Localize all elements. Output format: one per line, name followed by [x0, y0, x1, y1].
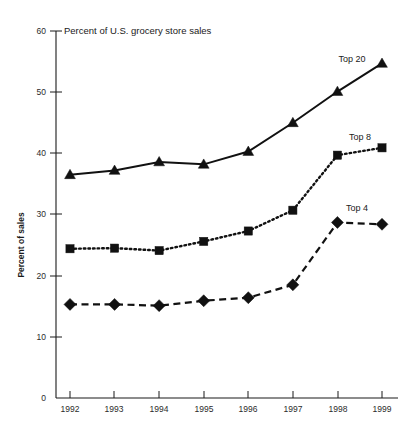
series-label-top-4: Top 4	[346, 203, 368, 213]
y-tick-label-30: 30	[37, 209, 47, 219]
x-axis-ticks: 1992 1993 1994 1995 1996 1997 1998 1999	[61, 391, 392, 414]
data-point-marker	[287, 117, 298, 126]
data-point-marker	[244, 227, 252, 235]
data-point-marker	[198, 295, 210, 307]
series-top-8	[66, 144, 386, 255]
chart-title: Percent of U.S. grocery store sales	[64, 25, 212, 36]
data-point-marker	[376, 218, 388, 230]
data-point-marker	[332, 86, 343, 95]
x-tick-label-1998: 1998	[329, 404, 348, 414]
y-tick-label-0: 0	[41, 393, 46, 403]
series-top-4	[64, 216, 388, 311]
data-point-marker	[109, 298, 121, 310]
y-tick-label-50: 50	[37, 87, 47, 97]
data-point-marker	[242, 292, 254, 304]
x-tick-label-1996: 1996	[239, 404, 258, 414]
series-line-2	[70, 222, 382, 305]
y-tick-label-10: 10	[37, 332, 47, 342]
data-point-marker	[110, 244, 118, 252]
data-point-marker	[153, 300, 165, 312]
series-top-20	[65, 58, 388, 179]
x-tick-label-1999: 1999	[373, 404, 392, 414]
series-label-top-8: Top 8	[349, 132, 371, 142]
data-point-marker	[378, 144, 386, 152]
series-line-1	[70, 148, 382, 251]
series-label-top-20: Top 20	[338, 54, 365, 64]
series-layer	[64, 58, 388, 312]
x-tick-label-1992: 1992	[61, 404, 80, 414]
data-point-marker	[64, 298, 76, 310]
x-tick-label-1995: 1995	[195, 404, 214, 414]
data-point-marker	[333, 151, 341, 159]
data-point-marker	[200, 237, 208, 245]
line-chart-svg: Percent of U.S. grocery store sales Perc…	[0, 0, 416, 436]
chart-container: Percent of U.S. grocery store sales Perc…	[0, 0, 416, 436]
data-point-marker	[243, 146, 254, 155]
x-tick-label-1994: 1994	[150, 404, 169, 414]
y-tick-label-60: 60	[37, 26, 47, 36]
data-point-marker	[289, 206, 297, 214]
data-point-marker	[66, 245, 74, 253]
y-tick-label-20: 20	[37, 271, 47, 281]
y-axis-ticks: 60 50 40 30 20 10 0	[37, 26, 62, 403]
data-point-marker	[155, 246, 163, 254]
data-point-marker	[377, 58, 388, 67]
y-axis-title: Percent of sales	[16, 212, 26, 277]
data-point-marker	[331, 216, 343, 228]
x-tick-label-1993: 1993	[105, 404, 124, 414]
y-tick-label-40: 40	[37, 148, 47, 158]
x-tick-label-1997: 1997	[284, 404, 303, 414]
